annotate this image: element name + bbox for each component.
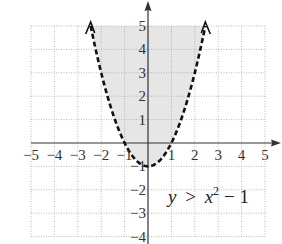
x-tick-label: −5 [23, 147, 39, 163]
x-tick-label: 4 [238, 147, 246, 163]
y-tick-label: 5 [139, 18, 147, 34]
inequality-graph: −5−4−3−2−112345 54321−1−2−3−4 y > x2− 1 [0, 0, 282, 244]
x-tick-label: 2 [191, 147, 199, 163]
x-tick-label: 3 [214, 147, 222, 163]
y-tick-label: 3 [139, 65, 147, 81]
y-tick-label: −4 [130, 229, 146, 244]
y-tick-label: 2 [139, 88, 147, 104]
y-tick-label: −1 [130, 158, 146, 174]
x-tick-label: 5 [261, 147, 269, 163]
x-tick-label: −2 [93, 147, 109, 163]
x-tick-label: −3 [70, 147, 86, 163]
x-tick-label: −4 [46, 147, 62, 163]
x-axis-arrow-icon [271, 140, 281, 147]
y-tick-label: −3 [130, 205, 146, 221]
y-tick-label: 4 [139, 41, 147, 57]
y-axis-arrow-icon [145, 1, 152, 11]
x-tick-label: 1 [168, 147, 176, 163]
y-tick-label: −2 [130, 182, 146, 198]
y-tick-label: 1 [139, 112, 147, 128]
inequality-label: y > x2− 1 [166, 184, 249, 207]
